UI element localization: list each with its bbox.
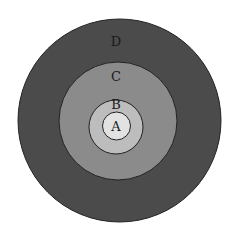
label-b: B [111, 97, 121, 112]
label-d: D [111, 34, 121, 49]
label-c: C [111, 69, 121, 84]
concentric-circles-diagram: D C B A [0, 0, 239, 239]
label-a: A [110, 119, 121, 134]
